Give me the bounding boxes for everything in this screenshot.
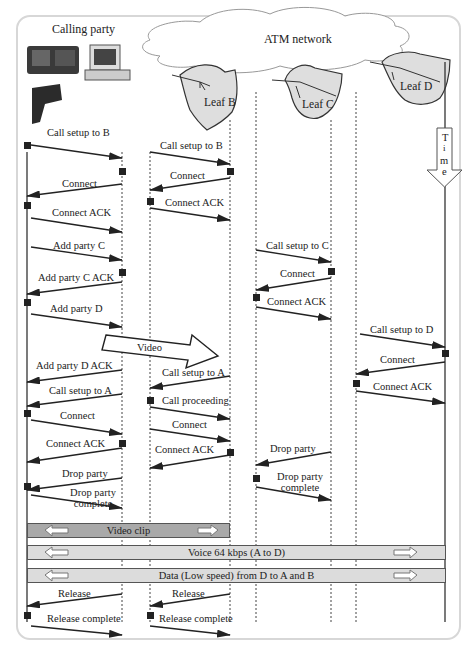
leaf-c-label: Leaf C: [302, 98, 334, 110]
msg-release-complete-a: Release complete: [47, 613, 121, 624]
msg-release-b: Release: [172, 588, 205, 599]
msg-release-complete-b: Release complete: [159, 613, 233, 624]
msg-connect-ack-a2: Connect ACK: [46, 438, 105, 449]
msg-release-a: Release: [58, 588, 91, 599]
msg-connect-ack-a: Connect ACK: [52, 207, 111, 218]
msg-connect-ack-c: Connect ACK: [267, 296, 326, 307]
msg-call-setup-c: Call setup to C: [266, 240, 329, 251]
msg-drop-party-complete-c: Drop party complete: [265, 471, 335, 493]
msg-connect-a: Connect: [62, 178, 97, 189]
msg-drop-party-a: Drop party: [62, 468, 108, 479]
video-clip-band: Video clip: [27, 523, 230, 538]
atm-signalling-diagram: Calling party ATM network Leaf B Leaf C …: [0, 0, 466, 656]
msg-connect-d: Connect: [380, 354, 415, 365]
msg-connect-b2: Connect: [172, 419, 207, 430]
msg-call-setup-d: Call setup to D: [370, 324, 433, 335]
msg-add-party-d: Add party D: [50, 303, 103, 314]
msg-connect-ack-d: Connect ACK: [373, 381, 432, 392]
msg-connect-ack-b2: Connect ACK: [155, 444, 214, 455]
voice-band: Voice 64 kbps (A to D): [27, 545, 446, 560]
data-band: Data (Low speed) from D to A and B: [27, 568, 446, 583]
time-letter: m: [440, 155, 448, 166]
time-letter: i: [443, 144, 446, 153]
time-letter: T: [442, 132, 448, 143]
telephone-icon: [27, 46, 79, 74]
video-camera-icon: [32, 84, 62, 124]
leaf-b-label: Leaf B: [204, 96, 236, 108]
computer-icon: [85, 45, 130, 80]
msg-add-party-c-ack: Add party C ACK: [38, 272, 114, 283]
msg-drop-party-c: Drop party: [270, 443, 316, 454]
calling-party-label: Calling party: [52, 22, 115, 37]
leaf-d-label: Leaf D: [400, 80, 432, 92]
msg-connect-a2: Connect: [60, 410, 95, 421]
msg-call-proceeding: Call proceeding: [162, 395, 229, 406]
video-label: Video: [137, 342, 162, 353]
msg-connect-c: Connect: [280, 268, 315, 279]
msg-call-setup-a-b: Call setup to A: [162, 367, 225, 378]
msg-add-party-c: Add party C: [53, 240, 105, 251]
msg-call-setup-b-sw: Call setup to B: [160, 140, 223, 151]
leaf-c-icon: [272, 65, 342, 118]
msg-call-setup-a-sw: Call setup to A: [49, 385, 112, 396]
msg-call-setup-b-a: Call setup to B: [47, 127, 110, 138]
atm-network-label: ATM network: [264, 32, 332, 47]
time-letter: e: [442, 166, 447, 177]
msg-add-party-d-ack: Add party D ACK: [36, 360, 113, 371]
msg-drop-party-complete-a: Drop party complete: [58, 487, 128, 509]
msg-connect-b: Connect: [170, 170, 205, 181]
msg-connect-ack-b: Connect ACK: [165, 197, 224, 208]
